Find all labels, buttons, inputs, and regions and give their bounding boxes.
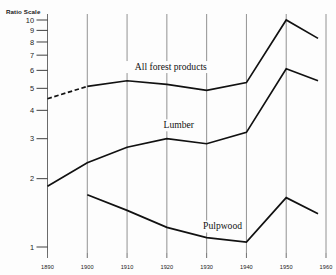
x-axis-ticks bbox=[48, 253, 327, 258]
series-annotation-pulpwood: Pulpwood bbox=[203, 220, 242, 231]
y-tick-label-6: 6 bbox=[30, 66, 34, 75]
y-tick-label-5: 5 bbox=[30, 84, 34, 93]
y-tick-label-9: 9 bbox=[30, 26, 34, 35]
series-line-all-forest-products bbox=[87, 20, 318, 90]
chart-page: Ratio Scale 12345678910 1890190019101920… bbox=[0, 0, 336, 275]
y-tick-label-2: 2 bbox=[30, 174, 34, 183]
series-annotation-all: All forest products bbox=[135, 61, 207, 72]
y-tick-label-10: 10 bbox=[26, 16, 34, 25]
y-tick-labels: 12345678910 bbox=[26, 16, 34, 252]
x-tick-label-1940: 1940 bbox=[240, 264, 253, 270]
x-tick-label-1910: 1910 bbox=[121, 264, 134, 270]
y-tick-label-4: 4 bbox=[30, 106, 34, 115]
x-tick-label-1950: 1950 bbox=[280, 264, 293, 270]
forest-products-line-chart: Ratio Scale 12345678910 1890190019101920… bbox=[0, 0, 336, 275]
gridlines bbox=[87, 14, 326, 253]
y-tick-label-8: 8 bbox=[30, 38, 34, 47]
series-line-pulpwood bbox=[87, 195, 318, 243]
x-tick-label-1960: 1960 bbox=[320, 264, 333, 270]
y-tick-label-1: 1 bbox=[30, 243, 34, 252]
x-tick-label-1920: 1920 bbox=[160, 264, 173, 270]
x-tick-label-1890: 1890 bbox=[41, 264, 54, 270]
y-tick-label-3: 3 bbox=[30, 134, 34, 143]
y-tick-label-7: 7 bbox=[30, 51, 34, 60]
y-axis-ticks bbox=[37, 20, 48, 247]
x-tick-labels: 18901900191019201930194019501960 bbox=[41, 264, 332, 270]
series-line-dashed-all-forest-products bbox=[48, 86, 88, 98]
x-tick-label-1900: 1900 bbox=[81, 264, 94, 270]
series-annotation-lumber: Lumber bbox=[164, 119, 195, 130]
y-axis-title: Ratio Scale bbox=[6, 8, 41, 15]
x-tick-label-1930: 1930 bbox=[200, 264, 213, 270]
